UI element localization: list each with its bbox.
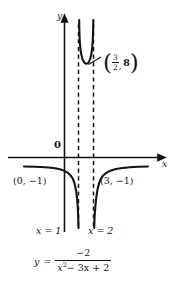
- equation-numerator: −2: [73, 248, 93, 259]
- fraction-numerator: 3: [112, 54, 119, 62]
- y-axis-label: y: [57, 12, 62, 21]
- equation-equals-sign: =: [39, 256, 55, 267]
- fraction-denominator: 2: [112, 64, 119, 72]
- x-axis-label: x: [162, 160, 167, 169]
- turning-point-open-paren: (: [103, 54, 112, 72]
- asymptote-label-x-2: x = 2: [88, 226, 113, 236]
- function-graph-figure: y x 0 (0, −1) (3, −1) x = 1 x = 2 ( 3 2 …: [0, 0, 173, 293]
- origin-label: 0: [54, 140, 61, 150]
- curve-middle-branch: [79, 20, 93, 64]
- turning-point-y-value: 8: [122, 58, 130, 68]
- function-equation: y = −2 x2− 3x + 2: [34, 248, 111, 274]
- point-label-y-intercept: (0, −1): [13, 176, 47, 186]
- denominator-remainder: − 3x + 2: [67, 262, 109, 273]
- point-label-right-branch: (3, −1): [100, 176, 134, 186]
- turning-point-label: ( 3 2 , 8 ): [103, 54, 139, 72]
- turning-point-close-paren: ): [130, 54, 139, 72]
- asymptote-label-x-1: x = 1: [36, 226, 61, 236]
- equation-fraction: −2 x2− 3x + 2: [55, 248, 111, 274]
- turning-point-x-fraction: 3 2: [112, 54, 119, 72]
- equation-denominator: x2− 3x + 2: [55, 262, 111, 274]
